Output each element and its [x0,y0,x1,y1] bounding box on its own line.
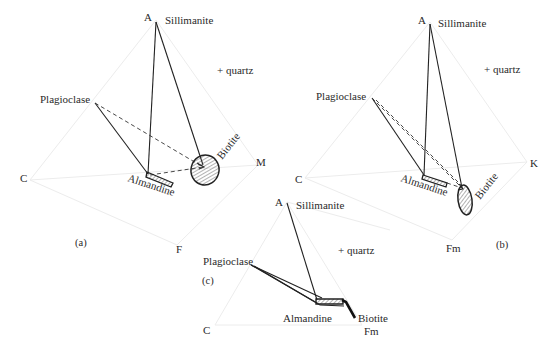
quartz-label-c: + quartz [338,244,375,256]
corner-c-label-a: C [20,172,27,184]
panel-a: A Sillimanite + quartz Plagioclase Bioti… [20,11,266,255]
panel-c: A Sillimanite + quartz Plagioclase Alman… [202,196,390,337]
sillimanite-label-a: Sillimanite [165,14,213,26]
corner-c-label-c: C [203,324,210,336]
caption-a: (a) [75,237,87,249]
caption-b: (b) [496,239,509,251]
quartz-label-b: + quartz [484,63,521,75]
corner-m-label-a: M [256,156,266,168]
quartz-label-a: + quartz [217,64,254,76]
sillimanite-label-b: Sillimanite [438,17,486,29]
plagioclase-label-a: Plagioclase [40,93,90,105]
caption-c: (c) [202,275,214,287]
panel-b: A Sillimanite + quartz Plagioclase Bioti… [295,14,538,254]
apex-label-a: A [144,11,152,23]
biotite-label-a: Biotite [214,130,242,161]
almandine-bar-c [316,299,343,304]
apex-label-b: A [418,14,426,26]
corner-fm-label-b: Fm [446,242,461,254]
corner-f-label-a: F [176,243,182,255]
almandine-label-c: Almandine [283,312,332,324]
plagioclase-label-b: Plagioclase [316,90,366,102]
biotite-field-b [456,184,474,216]
biotite-label-c: Biotite [358,312,388,324]
tie-lines-b [372,24,463,190]
corner-fm-label-c: Fm [364,325,379,337]
corner-c-label-b: C [295,173,302,185]
tie-lines-a [95,22,204,175]
biotite-label-b: Biotite [472,170,500,201]
sillimanite-label-c: Sillimanite [296,199,344,211]
mineral-assemblage-diagram: A Sillimanite + quartz Plagioclase Bioti… [0,0,554,341]
apex-label-c: A [275,196,283,208]
corner-k-label-b: K [530,157,538,169]
plagioclase-label-c: Plagioclase [203,255,253,267]
